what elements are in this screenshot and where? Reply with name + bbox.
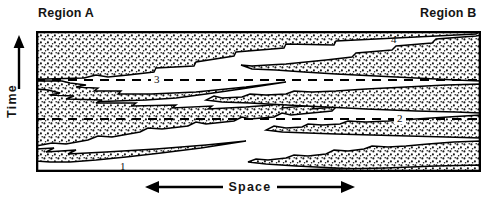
facies-body: [36, 31, 481, 172]
space-axis: Space: [130, 176, 370, 198]
line-label-4: 4: [391, 33, 397, 45]
line-label-1: 1: [120, 160, 126, 172]
arrow-left-icon: [145, 179, 223, 195]
line-label-3: 3: [151, 73, 163, 85]
time-axis: Time: [2, 34, 32, 172]
line-label-2: 2: [394, 112, 406, 124]
arrow-right-icon: [277, 179, 355, 195]
region-a-label: Region A: [38, 6, 94, 20]
figure-canvas: Region A Region B Time Space: [0, 0, 503, 199]
region-b-label: Region B: [420, 6, 476, 20]
space-axis-label: Space: [223, 180, 278, 194]
stratigraphic-diagram: 3 2 1 4: [36, 31, 481, 172]
time-axis-label: Time: [5, 72, 19, 130]
